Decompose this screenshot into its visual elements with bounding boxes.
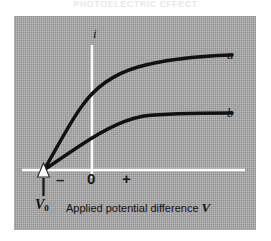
x-axis-title-text: Applied potential difference [66, 202, 199, 214]
plot-panel: i a b – 0 + V0 Applied potential differe… [14, 16, 256, 230]
plot-drawing [14, 16, 256, 230]
x-axis-title-phrase: Applied potential difference [66, 202, 199, 214]
stopping-potential-subscript: 0 [44, 203, 49, 213]
curve-label-a: a [227, 47, 234, 63]
stopping-potential-label: V0 [35, 197, 49, 213]
top-caption-text: PHOTOELECTRIC EFFECT [0, 0, 271, 8]
y-axis-label: i [93, 26, 97, 42]
stopping-potential-symbol: V [35, 197, 44, 212]
x-axis-title-variable: V [202, 200, 211, 215]
x-axis-title: Applied potential difference V [66, 200, 210, 216]
x-tick-negative: – [56, 171, 64, 188]
x-tick-zero: 0 [87, 170, 95, 187]
photoelectric-figure: PHOTOELECTRIC EFFECT i a b – 0 + V [0, 0, 271, 241]
curve-label-b: b [227, 105, 234, 121]
x-tick-positive: + [122, 170, 131, 187]
